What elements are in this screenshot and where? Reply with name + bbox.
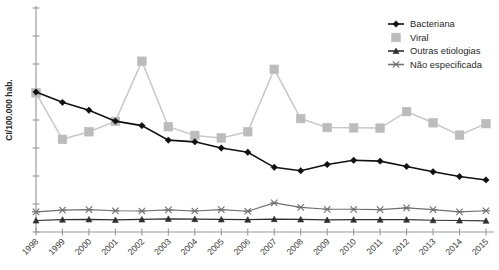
data-point-bacteriana: [456, 173, 462, 179]
data-point-viral: [85, 127, 94, 136]
legend-marker: [392, 33, 401, 42]
series-bacteriana-line: [36, 92, 486, 180]
legend-label: Viral: [410, 32, 429, 43]
data-point-bacteriana: [403, 163, 409, 169]
series-viral: [32, 57, 491, 144]
data-point-bacteriana: [350, 157, 356, 163]
x-axis-tick-label: 2007: [258, 236, 279, 257]
x-axis-tick-label: 1999: [46, 236, 67, 257]
x-axis-tick-label: 2010: [337, 236, 358, 257]
series-outras-etiologias-line: [36, 219, 486, 221]
legend-label: Não especificada: [410, 59, 483, 70]
data-point-viral: [402, 107, 411, 116]
x-axis-tick-label: 2008: [285, 236, 306, 257]
data-point-viral: [296, 114, 305, 123]
x-axis-tick-label: 1998: [20, 236, 41, 257]
data-point-bacteriana: [245, 149, 251, 155]
series-nao-especificada-line: [36, 203, 486, 212]
chart-canvas: 1998199920002001200220032004200520062007…: [0, 0, 499, 270]
legend-item[interactable]: Bacteriana: [388, 18, 456, 29]
data-point-viral: [323, 123, 332, 132]
x-axis-tick-label: 2003: [152, 236, 173, 257]
data-point-bacteriana: [139, 122, 145, 128]
legend-label: Outras etiologias: [410, 45, 481, 56]
data-point-viral: [455, 131, 464, 140]
data-point-viral: [243, 127, 252, 136]
data-point-viral: [138, 57, 147, 66]
x-axis-tick-label: 2004: [179, 236, 200, 257]
data-point-bacteriana: [430, 169, 436, 175]
data-point-bacteriana: [165, 137, 171, 143]
x-axis-tick-label: 2002: [126, 236, 147, 257]
data-point-bacteriana: [218, 145, 224, 151]
x-axis-tick-label: 2009: [311, 236, 332, 257]
data-point-bacteriana: [59, 99, 65, 105]
chart-legend: BacterianaViralOutras etiologiasNão espe…: [388, 18, 483, 70]
x-axis-tick-label: 2006: [232, 236, 253, 257]
data-point-bacteriana: [271, 164, 277, 170]
series-nao-especificada: [32, 200, 490, 215]
legend-label: Bacteriana: [410, 18, 456, 29]
x-axis-tick-label: 2014: [443, 236, 464, 257]
y-axis-title: CI/100.000 hab.: [4, 79, 14, 140]
data-point-bacteriana: [86, 107, 92, 113]
x-axis-tick-label: 2001: [99, 236, 120, 257]
data-point-viral: [217, 134, 226, 143]
data-point-viral: [482, 119, 491, 128]
data-point-viral: [58, 135, 67, 144]
x-axis-tick-label: 2015: [470, 236, 491, 257]
x-axis-tick-label: 2000: [73, 236, 94, 257]
data-point-bacteriana: [324, 161, 330, 167]
x-axis-tick-label: 2013: [417, 236, 438, 257]
x-axis-tick-label: 2012: [390, 236, 411, 257]
data-point-bacteriana: [298, 167, 304, 173]
x-axis-tick-label: 2011: [364, 236, 384, 256]
series-bacteriana: [33, 89, 489, 183]
data-point-bacteriana: [483, 177, 489, 183]
legend-item[interactable]: Outras etiologias: [388, 45, 481, 56]
legend-marker: [393, 21, 399, 27]
x-axis-tick-label: 2005: [205, 236, 226, 257]
data-point-viral: [164, 122, 173, 131]
data-point-viral: [376, 124, 385, 133]
data-point-viral: [429, 119, 438, 128]
line-chart: 1998199920002001200220032004200520062007…: [0, 0, 499, 270]
data-point-bacteriana: [377, 158, 383, 164]
data-point-viral: [349, 124, 358, 133]
legend-item[interactable]: Não especificada: [388, 59, 483, 70]
legend-item[interactable]: Viral: [388, 32, 429, 43]
data-point-viral: [270, 65, 279, 74]
series-viral-line: [36, 61, 486, 139]
series-outras-etiologias: [33, 216, 489, 224]
